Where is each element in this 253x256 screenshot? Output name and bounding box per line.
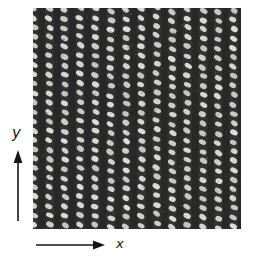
y-axis-label: y bbox=[12, 126, 21, 141]
x-axis-label: x bbox=[116, 237, 124, 250]
figure-canvas: y x bbox=[0, 0, 253, 256]
y-axis-arrow bbox=[12, 150, 24, 222]
x-arrow-head-icon bbox=[93, 241, 105, 250]
micrograph-image bbox=[33, 8, 241, 229]
y-arrow-head-icon bbox=[14, 150, 23, 163]
x-axis-arrow bbox=[36, 239, 106, 251]
